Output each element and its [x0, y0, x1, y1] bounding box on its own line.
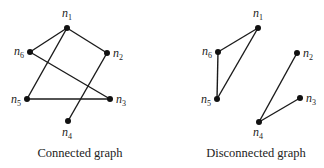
node-n4	[65, 118, 71, 124]
node-n6	[215, 49, 221, 55]
node-n3	[107, 96, 113, 102]
node-n1	[255, 25, 261, 31]
connected-graph-caption: Connected graph	[0, 146, 160, 161]
node-label-n6: n6	[202, 44, 212, 60]
edge-n6-n5	[217, 52, 218, 99]
node-n5	[214, 96, 220, 102]
edge-n2-n4	[68, 53, 107, 121]
edge-n6-n3	[30, 52, 110, 99]
node-label-n3: n3	[116, 92, 126, 108]
node-label-n4: n4	[253, 125, 263, 141]
node-label-n3: n3	[306, 91, 316, 107]
node-label-n1: n1	[62, 6, 72, 22]
edge-n1-n2	[67, 28, 107, 53]
disconnected-graph-caption: Disconnected graph	[176, 146, 324, 161]
edge-n1-n5	[27, 28, 67, 99]
node-label-n2: n2	[303, 46, 313, 62]
graph-diagram: n1n2n3n4n5n6 n1n2n3n4n5n6	[0, 0, 324, 168]
node-n2	[294, 50, 300, 56]
edge-n1-n6	[30, 28, 67, 52]
node-label-n2: n2	[113, 46, 123, 62]
connected-graph: n1n2n3n4n5n6	[11, 6, 126, 141]
node-n6	[27, 49, 33, 55]
node-n3	[297, 95, 303, 101]
edge-n1-n5	[217, 28, 258, 99]
node-n5	[24, 96, 30, 102]
edge-n1-n6	[218, 28, 258, 52]
node-label-n4: n4	[62, 125, 72, 141]
node-label-n6: n6	[14, 44, 24, 60]
node-n2	[104, 50, 110, 56]
node-label-n5: n5	[201, 92, 211, 108]
node-n1	[64, 25, 70, 31]
node-label-n1: n1	[253, 6, 263, 22]
disconnected-graph: n1n2n3n4n5n6	[201, 6, 316, 141]
node-label-n5: n5	[11, 92, 21, 108]
